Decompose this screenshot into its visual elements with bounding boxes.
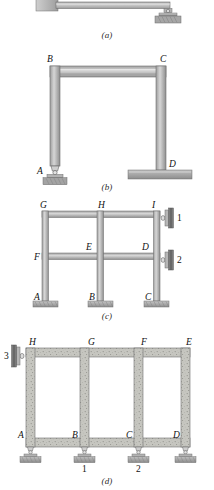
label-A: A — [33, 292, 40, 302]
pin-support-A — [20, 447, 41, 463]
label-C: C — [145, 292, 152, 302]
support-label-1: 1 — [177, 213, 182, 223]
label-D: D — [172, 430, 180, 440]
panel-a-caption: (a) — [0, 30, 214, 40]
label-H: H — [28, 337, 37, 347]
label-B: B — [47, 54, 53, 64]
beam-BC — [50, 66, 166, 77]
panel-a-cantilever-beam: (a) — [0, 0, 214, 48]
label-H: H — [97, 200, 106, 210]
wall-block-3 — [12, 345, 17, 367]
support-label-2: 2 — [177, 255, 182, 265]
column-B-E-H — [97, 211, 104, 301]
column-CD — [156, 66, 166, 170]
wall-roller-support-2 — [161, 250, 173, 270]
structural-figure: (a) — [0, 0, 214, 490]
label-F: F — [33, 252, 40, 262]
panel-d-caption: (d) — [0, 476, 214, 486]
label-B: B — [89, 292, 95, 302]
label-D: D — [141, 242, 149, 252]
wall-roller-support-3 — [12, 345, 25, 367]
wall-block-2 — [169, 250, 174, 270]
pin-support-B-1 — [74, 447, 95, 463]
column-CF — [134, 348, 143, 447]
label-C: C — [160, 54, 167, 64]
wall-roller-support-1 — [161, 208, 173, 228]
column-AH — [26, 348, 35, 447]
label-G: G — [88, 337, 95, 347]
column-C-D-I — [154, 211, 161, 301]
column-DE — [181, 348, 190, 447]
label-A: A — [36, 166, 43, 176]
panel-c-two-story-frame: G H I F E D A B C 1 2 (c) — [0, 196, 214, 326]
wall-block-1 — [169, 208, 174, 228]
label-F: F — [140, 337, 147, 347]
column-BG — [80, 348, 89, 447]
rocker-support — [155, 9, 181, 24]
label-B: B — [72, 430, 78, 440]
label-A: A — [17, 430, 24, 440]
support-base-plate — [155, 16, 181, 23]
label-E: E — [85, 242, 92, 252]
panel-d-concrete-frame: H G F E A B C D 3 1 2 (d) — [0, 326, 214, 490]
panel-c-caption: (c) — [0, 311, 214, 321]
panel-b-portal-frame: B C A D (b) — [0, 48, 214, 196]
label-G: G — [40, 200, 47, 210]
pin-support-C-2 — [128, 447, 149, 463]
support-label-1: 1 — [82, 464, 87, 474]
column-A-F-G — [42, 211, 49, 301]
panel-b-caption: (b) — [0, 182, 214, 192]
support-label-3: 3 — [4, 351, 9, 361]
label-I: I — [151, 200, 156, 210]
label-E: E — [185, 337, 192, 347]
pin-support-D — [175, 447, 196, 463]
beam-ABCD — [26, 438, 190, 447]
column-AB — [50, 66, 60, 166]
wall-support-block — [36, 0, 58, 11]
label-C: C — [126, 430, 133, 440]
beam-member — [56, 2, 170, 9]
support-label-2: 2 — [136, 464, 141, 474]
fixed-base-slab-D — [128, 170, 192, 179]
label-D: D — [168, 159, 176, 169]
beam-HGFE — [26, 348, 190, 357]
